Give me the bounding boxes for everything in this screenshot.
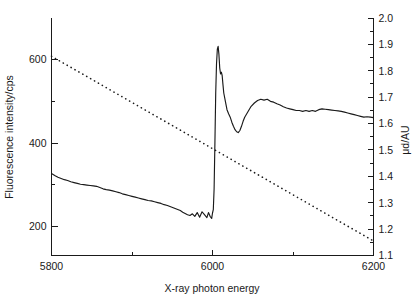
x-axis-title: X-ray photon energy	[164, 282, 260, 294]
right-axis-tick-labels: 1.11.21.31.41.51.61.71.81.92.0	[379, 12, 394, 261]
xafs-spectrum-plot: 200400600 1.11.21.31.41.51.61.71.81.92.0…	[0, 0, 418, 301]
right-tick-label: 1.4	[379, 170, 394, 182]
left-axis-ticks	[52, 60, 58, 227]
bottom-axis-ticks	[52, 250, 374, 256]
left-tick-label: 200	[29, 220, 47, 232]
left-axis-tick-labels: 200400600	[29, 53, 47, 232]
right-axis-ticks	[368, 18, 374, 256]
y-axis-title: Fluorescence intensity/cps	[3, 75, 15, 199]
bottom-tick-label: 6000	[201, 260, 225, 272]
right-tick-label: 1.6	[379, 117, 394, 129]
bottom-tick-label: 5800	[40, 260, 64, 272]
y-axis-right-title: μd/AU	[399, 125, 411, 154]
left-tick-label: 600	[29, 53, 47, 65]
chart-figure: 200400600 1.11.21.31.41.51.61.71.81.92.0…	[0, 0, 418, 301]
bottom-axis-tick-labels: 580060006200	[40, 260, 386, 272]
fluorescence-intensity-line	[52, 46, 374, 218]
right-tick-label: 1.9	[379, 38, 394, 50]
right-tick-label: 1.8	[379, 65, 394, 77]
right-tick-label: 1.5	[379, 144, 394, 156]
right-tick-label: 1.3	[379, 197, 394, 209]
right-tick-label: 1.2	[379, 223, 394, 235]
right-tick-label: 1.7	[379, 91, 394, 103]
left-tick-label: 400	[29, 137, 47, 149]
bottom-tick-label: 6200	[362, 260, 386, 272]
right-tick-label: 2.0	[379, 12, 394, 24]
